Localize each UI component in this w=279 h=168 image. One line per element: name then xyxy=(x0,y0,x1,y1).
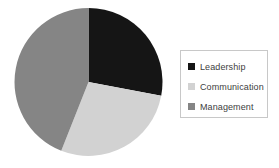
legend-item-communication[interactable]: Communication xyxy=(188,77,267,96)
pie-slice-leadership[interactable] xyxy=(89,8,163,96)
pie-chart-plot-area xyxy=(14,8,163,157)
chart-legend: Leadership Communication Management xyxy=(180,50,268,118)
legend-item-label: Leadership xyxy=(200,62,246,72)
square-swatch-icon xyxy=(188,63,195,70)
legend-item-leadership[interactable]: Leadership xyxy=(188,57,267,76)
square-swatch-icon xyxy=(188,103,195,110)
legend-item-label: Communication xyxy=(200,82,264,92)
square-swatch-icon xyxy=(188,83,195,90)
pie-chart-figure: Leadership Communication Management xyxy=(0,0,279,168)
legend-item-label: Management xyxy=(200,102,254,112)
legend-item-management[interactable]: Management xyxy=(188,97,267,116)
pie-slice-group xyxy=(15,8,163,156)
pie-chart-svg xyxy=(14,8,163,157)
